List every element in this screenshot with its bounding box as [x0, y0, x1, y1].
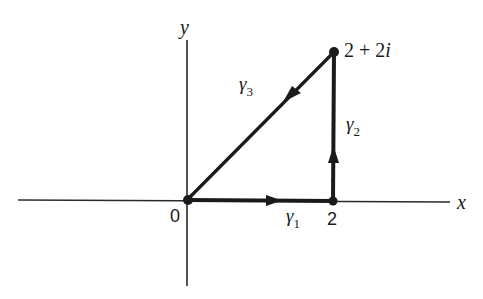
imaginary-unit: i [385, 39, 391, 61]
gamma1-segment [187, 200, 333, 201]
origin-point [183, 195, 193, 205]
gamma2-label: γ2 [346, 114, 360, 133]
gamma2-segment [333, 52, 334, 201]
x-axis-label: x [457, 192, 466, 212]
gamma2-symbol: γ [346, 113, 354, 134]
point-two-plus-two-i-text: 2 + 2i [344, 39, 391, 61]
gamma3-label: γ3 [239, 74, 253, 93]
complex-plane-diagram: y x 0 2 2 + 2i γ1 γ2 γ3 [0, 0, 483, 299]
gamma1-subscript: 1 [294, 216, 301, 231]
gamma2-subscript: 2 [354, 124, 361, 139]
point-two [329, 197, 338, 206]
y-axis-label: y [180, 17, 189, 37]
point-two-label: 2 [327, 210, 337, 228]
point-two-plus-two-i [329, 47, 339, 57]
gamma1-arrow-icon [266, 195, 282, 206]
gamma3-segment [187, 52, 334, 200]
origin-label: 0 [170, 207, 180, 225]
gamma1-label: γ1 [286, 206, 300, 225]
gamma1-symbol: γ [286, 205, 294, 226]
gamma3-symbol: γ [239, 73, 247, 94]
diagram-canvas [0, 0, 483, 299]
point-two-plus-two-i-label: 2 + 2i [344, 40, 391, 60]
gamma3-subscript: 3 [247, 84, 254, 99]
gamma2-arrow-icon [328, 146, 339, 163]
